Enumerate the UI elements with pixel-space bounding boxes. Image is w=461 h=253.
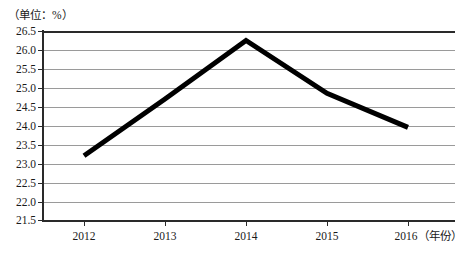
y-tick-mark-26-0: [38, 50, 43, 51]
y-tick-label-22-5: 22.5: [2, 178, 36, 189]
y-tick-mark-24-5: [38, 107, 43, 108]
gridline-25-0: [43, 88, 455, 89]
y-tick-mark-26-5: [38, 31, 43, 32]
x-axis-line: [43, 220, 455, 222]
y-tick-mark-25-5: [38, 69, 43, 70]
y-tick-label-24-0: 24.0: [2, 121, 36, 132]
y-tick-label-25-5: 25.5: [2, 64, 36, 75]
x-tick-mark-2014: [246, 221, 247, 226]
x-tick-label-2012: 2012: [73, 230, 96, 243]
unit-label: （单位：%）: [8, 6, 73, 22]
gridline-26-5: [43, 31, 455, 33]
y-tick-label-26-5: 26.5: [2, 26, 36, 37]
y-tick-mark-22-5: [38, 183, 43, 184]
y-tick-label-25-0: 25.0: [2, 83, 36, 94]
gridline-23-0: [43, 164, 455, 165]
y-tick-label-22-0: 22.0: [2, 197, 36, 208]
gridline-23-5: [43, 145, 455, 146]
y-tick-mark-23-5: [38, 145, 43, 146]
y-tick-label-23-0: 23.0: [2, 159, 36, 170]
y-tick-label-24-5: 24.5: [2, 102, 36, 113]
line-chart: （单位：%） 26.5 26.0 25.5 25.0 24.5 24.0 23.…: [0, 0, 461, 253]
y-tick-mark-24-0: [38, 126, 43, 127]
x-tick-mark-2013: [165, 221, 166, 226]
gridline-26-0: [43, 50, 455, 51]
gridline-25-5: [43, 69, 455, 70]
y-tick-mark-21-5: [38, 220, 43, 221]
x-tick-mark-2012: [84, 221, 85, 226]
y-tick-label-26-0: 26.0: [2, 45, 36, 56]
gridline-22-0: [43, 202, 455, 203]
plot-area: [43, 31, 455, 221]
x-tick-mark-2016: [408, 221, 409, 226]
y-tick-label-23-5: 23.5: [2, 140, 36, 151]
gridline-22-5: [43, 183, 455, 184]
x-tick-label-2013: 2013: [154, 230, 177, 243]
x-tick-label-2016: 2016（年份）: [395, 230, 461, 243]
gridline-24-5: [43, 107, 455, 108]
x-tick-label-2014: 2014: [235, 230, 258, 243]
y-tick-mark-22-0: [38, 202, 43, 203]
gridline-24-0: [43, 126, 455, 127]
x-tick-label-2015: 2015: [316, 230, 339, 243]
y-tick-mark-23-0: [38, 164, 43, 165]
x-tick-mark-2015: [327, 221, 328, 226]
y-tick-label-21-5: 21.5: [2, 215, 36, 226]
y-tick-mark-25-0: [38, 88, 43, 89]
